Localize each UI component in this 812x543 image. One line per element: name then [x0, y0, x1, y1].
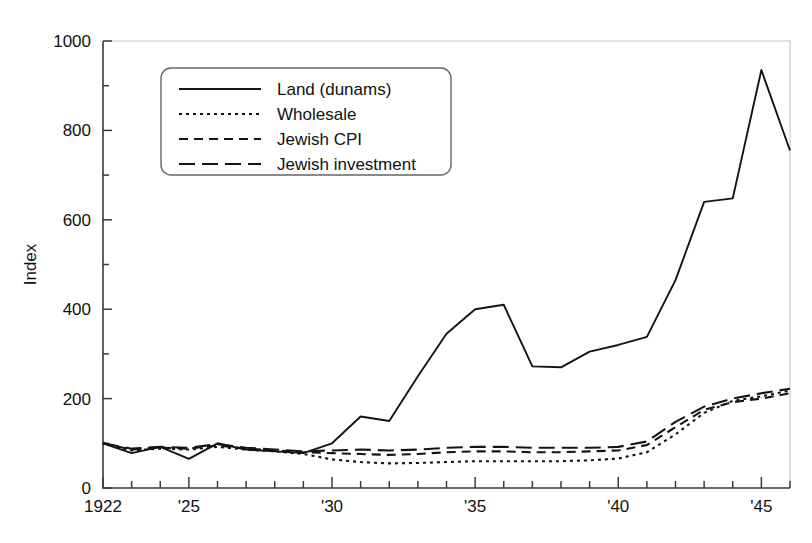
chart-figure: 02004006008001000 1922'25'30'35'40'45 In… [0, 0, 812, 543]
y-tick-label: 200 [63, 390, 91, 409]
legend-label: Land (dunams) [277, 80, 391, 99]
x-axis-tick-labels: 1922'25'30'35'40'45 [84, 497, 772, 516]
x-tick-label: '45 [750, 497, 772, 516]
y-axis-ticks [103, 41, 112, 488]
series-line-wholesale [103, 391, 790, 464]
y-tick-label: 800 [63, 121, 91, 140]
x-tick-label: '30 [321, 497, 343, 516]
x-tick-label: 1922 [84, 497, 122, 516]
y-tick-label: 600 [63, 211, 91, 230]
y-tick-label: 400 [63, 300, 91, 319]
y-axis-title: Index [21, 243, 40, 285]
y-tick-label: 1000 [53, 32, 91, 51]
x-tick-label: '35 [464, 497, 486, 516]
x-tick-label: '40 [607, 497, 629, 516]
legend-label: Jewish CPI [277, 130, 362, 149]
chart-legend: Land (dunams)WholesaleJewish CPIJewish i… [161, 68, 451, 175]
y-axis-title-text: Index [21, 243, 40, 285]
x-axis-ticks [103, 477, 790, 488]
legend-label: Jewish investment [277, 155, 416, 174]
y-tick-label: 0 [82, 479, 91, 498]
line-chart: 02004006008001000 1922'25'30'35'40'45 In… [0, 0, 812, 543]
x-tick-label: '25 [178, 497, 200, 516]
legend-label: Wholesale [277, 105, 356, 124]
y-axis-tick-labels: 02004006008001000 [53, 32, 91, 498]
